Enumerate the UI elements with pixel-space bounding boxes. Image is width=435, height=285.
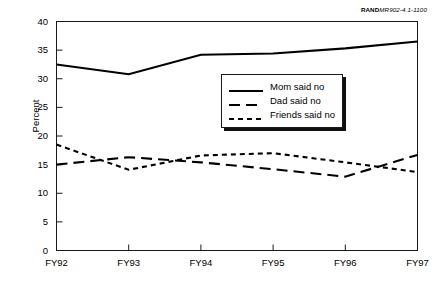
legend-label: Mom said no xyxy=(270,82,324,92)
legend-line-swatch xyxy=(229,96,263,106)
legend-row: Friends said no xyxy=(229,108,335,122)
legend-row: Dad said no xyxy=(229,94,335,108)
figure-container: RANDMR902-4.1-1100 Percent 0510152025303… xyxy=(0,0,435,285)
chart-legend: Mom said noDad said noFriends said no xyxy=(221,74,343,128)
legend-label: Friends said no xyxy=(270,110,335,120)
line-chart-plot xyxy=(0,0,435,285)
legend-row: Mom said no xyxy=(229,80,335,94)
legend-line-swatch xyxy=(229,82,263,92)
series-line xyxy=(57,42,418,75)
axis-tick-marks xyxy=(57,22,346,251)
series-line xyxy=(57,155,418,177)
plot-frame xyxy=(57,22,418,251)
legend-line-swatch xyxy=(229,110,263,120)
legend-label: Dad said no xyxy=(270,96,321,106)
